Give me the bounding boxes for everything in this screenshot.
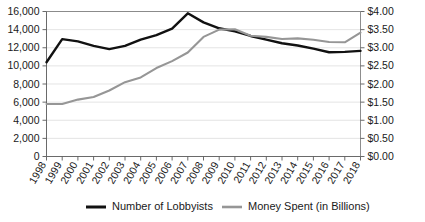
right-axis-tick-label: $0.50	[368, 132, 394, 144]
data-series-group	[47, 13, 361, 104]
right-axis-tick-label: $1.50	[368, 96, 394, 108]
left-axis-tick-label: 4,000	[13, 114, 39, 126]
chart-canvas: 02,0004,0006,0008,00010,00012,00014,0001…	[0, 0, 425, 222]
left-axis-tick-labels: 02,0004,0006,0008,00010,00012,00014,0001…	[7, 5, 39, 162]
right-axis-tick-label: $0.00	[368, 150, 394, 162]
left-axis-tick-label: 16,000	[7, 5, 39, 17]
left-axis-tick-label: 2,000	[13, 132, 39, 144]
left-axis-tick-label: 12,000	[7, 41, 39, 53]
x-axis-category-label: 2018	[340, 159, 362, 185]
x-axis	[47, 157, 361, 161]
right-axis-tick-label: $3.50	[368, 23, 394, 35]
right-axis-tick-label: $1.00	[368, 114, 394, 126]
right-axis-tick-label: $4.00	[368, 5, 394, 17]
right-axis-tick-labels: $0.00$0.50$1.00$1.50$2.00$2.50$3.00$3.50…	[368, 5, 394, 162]
lobbying-line-chart: 02,0004,0006,0008,00010,00012,00014,0001…	[0, 0, 425, 222]
right-axis-tick-label: $3.00	[368, 41, 394, 53]
gridlines	[47, 12, 361, 139]
left-axis-tick-label: 6,000	[13, 96, 39, 108]
left-axis-tick-label: 10,000	[7, 59, 39, 71]
left-axis	[43, 12, 47, 157]
x-axis-category-labels: 1998199920002001200220032004200520062007…	[26, 159, 362, 185]
series-line-money-spent-in-billions	[47, 29, 361, 104]
legend-label: Number of Lobbyists	[112, 200, 213, 212]
legend-label: Money Spent (in Billions)	[248, 200, 370, 212]
chart-legend: Number of LobbyistsMoney Spent (in Billi…	[86, 200, 370, 212]
right-axis-tick-label: $2.00	[368, 78, 394, 90]
left-axis-tick-label: 8,000	[13, 78, 39, 90]
left-axis-tick-label: 14,000	[7, 23, 39, 35]
right-axis-tick-label: $2.50	[368, 59, 394, 71]
